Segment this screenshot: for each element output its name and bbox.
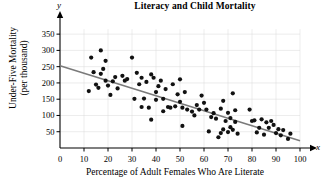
data-point <box>104 59 108 63</box>
data-point <box>281 128 285 132</box>
data-point <box>154 98 158 102</box>
data-point <box>219 107 223 111</box>
data-point <box>219 131 223 135</box>
data-point <box>221 99 225 103</box>
data-point <box>135 71 139 75</box>
data-point <box>272 123 276 127</box>
data-point <box>89 55 93 59</box>
data-point <box>87 89 91 93</box>
x-tick-label: 20 <box>104 154 113 164</box>
data-point <box>180 124 184 128</box>
x-tick-label: 50 <box>176 154 185 164</box>
data-point <box>185 108 189 112</box>
y-tick-label: 250 <box>42 62 55 72</box>
data-point <box>101 67 105 71</box>
y-tick-label: 150 <box>42 94 55 104</box>
data-point <box>149 118 153 122</box>
data-point <box>269 119 273 123</box>
data-point <box>113 75 117 79</box>
data-point <box>233 120 237 124</box>
data-point <box>257 126 261 130</box>
data-point <box>159 79 163 83</box>
y-tick-label: 350 <box>42 29 55 39</box>
x-tick-label: 40 <box>152 154 161 164</box>
x-tick-label: 60 <box>200 154 209 164</box>
data-point <box>190 109 194 113</box>
data-point <box>209 115 213 119</box>
axis-ticks: 5010015020025030035001020304050607080901… <box>42 29 307 164</box>
data-point <box>286 137 290 141</box>
data-point <box>120 74 124 78</box>
data-point <box>216 135 220 139</box>
data-point <box>202 101 206 105</box>
x-tick-label: 70 <box>224 154 233 164</box>
data-point <box>255 130 259 134</box>
data-point <box>171 82 175 86</box>
data-point <box>125 77 129 81</box>
data-point <box>207 129 211 133</box>
data-point <box>132 97 136 101</box>
data-point <box>161 97 165 101</box>
scatter-plot-figure: Literacy and Child Mortality Under-Five … <box>0 0 328 186</box>
data-point <box>195 103 199 107</box>
data-point <box>224 119 228 123</box>
data-point <box>192 113 196 117</box>
x-tick-label: 10 <box>80 154 89 164</box>
data-point <box>279 133 283 137</box>
data-point <box>152 76 156 80</box>
data-point <box>164 87 168 91</box>
data-point <box>288 132 292 136</box>
data-point <box>116 86 120 90</box>
data-point <box>264 120 268 124</box>
y-tick-label: 50 <box>46 127 55 137</box>
data-point <box>96 86 100 90</box>
data-point <box>252 118 256 122</box>
data-point <box>92 70 96 74</box>
data-point <box>260 117 264 121</box>
data-point <box>233 108 237 112</box>
data-point <box>140 105 144 109</box>
data-point <box>248 108 252 112</box>
y-tick-label: 300 <box>42 45 55 55</box>
data-point <box>231 91 235 95</box>
data-point <box>99 72 103 76</box>
data-point <box>140 76 144 80</box>
data-point <box>99 48 103 52</box>
data-point <box>106 83 110 87</box>
data-point <box>137 82 141 86</box>
data-point <box>144 80 148 84</box>
data-point <box>178 77 182 81</box>
data-points <box>87 48 293 141</box>
x-tick-label: 80 <box>248 154 257 164</box>
data-point <box>226 130 230 134</box>
data-point <box>274 131 278 135</box>
data-point <box>204 108 208 112</box>
data-point <box>221 127 225 131</box>
y-tick-label: 200 <box>42 78 55 88</box>
data-point <box>183 90 187 94</box>
data-point <box>130 55 134 59</box>
x-tick-label: 100 <box>294 154 307 164</box>
data-point <box>267 126 271 130</box>
data-point <box>142 96 146 100</box>
data-point <box>262 133 266 137</box>
data-point <box>200 94 204 98</box>
data-point <box>212 111 216 115</box>
y-tick-label: 100 <box>42 110 55 120</box>
data-point <box>178 100 182 104</box>
data-point <box>108 93 112 97</box>
data-point <box>214 117 218 121</box>
data-point <box>173 104 177 108</box>
data-point <box>276 127 280 131</box>
x-tick-label: 30 <box>128 154 137 164</box>
data-point <box>197 108 201 112</box>
data-point <box>156 84 160 88</box>
data-point <box>176 92 180 96</box>
data-point <box>168 106 172 110</box>
data-point <box>228 116 232 120</box>
x-tick-label: 90 <box>272 154 281 164</box>
data-point <box>226 111 230 115</box>
data-point <box>111 79 115 83</box>
data-point <box>180 106 184 110</box>
data-point <box>236 132 240 136</box>
